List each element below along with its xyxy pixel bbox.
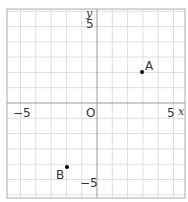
point-a-marker bbox=[140, 70, 144, 74]
point-b-label: B bbox=[56, 168, 64, 182]
x-axis-label: x bbox=[178, 105, 185, 118]
x-tick-label-5: 5 bbox=[167, 106, 175, 120]
coordinate-plane: y 5 −5 O 5 x −5 A B bbox=[0, 0, 188, 202]
point-b-marker bbox=[65, 165, 69, 169]
x-tick-label-neg5: −5 bbox=[13, 106, 31, 120]
origin-label: O bbox=[86, 106, 95, 120]
y-tick-label-5: 5 bbox=[86, 17, 94, 31]
point-a-label: A bbox=[145, 59, 154, 73]
y-tick-label-neg5: −5 bbox=[80, 176, 98, 190]
